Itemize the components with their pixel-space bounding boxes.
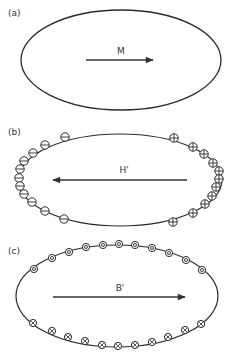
- diagram-canvas: (a) M (b) H' (c) B': [0, 0, 232, 354]
- minus-icon: [20, 157, 28, 165]
- cross-into-page-icon: [181, 326, 188, 333]
- dot-out-of-page-icon: [115, 240, 122, 247]
- minus-icon: [20, 190, 28, 198]
- panel-c: (c) B': [8, 240, 218, 349]
- cross-into-page-icon: [48, 327, 55, 334]
- minus-icon: [28, 198, 36, 206]
- plus-icon: [200, 150, 208, 158]
- plus-icon: [189, 143, 197, 151]
- plus-icon: [170, 134, 178, 142]
- dot-out-of-page-icon: [148, 244, 155, 251]
- negative-pole-charges: [15, 133, 69, 223]
- dot-out-of-page-icon: [82, 243, 89, 250]
- cross-into-page-icon: [29, 319, 36, 326]
- plus-icon: [169, 218, 177, 226]
- panel-c-label: (c): [8, 246, 20, 256]
- vector-label-b-prime: B': [116, 283, 125, 293]
- panel-b: (b) H': [8, 127, 223, 226]
- minus-icon: [41, 207, 49, 215]
- dot-out-of-page-icon: [48, 254, 55, 261]
- minus-icon: [16, 165, 24, 173]
- plus-icon: [208, 192, 216, 200]
- minus-icon: [29, 149, 37, 157]
- cross-into-page-icon: [131, 341, 138, 348]
- cross-into-page-icon: [148, 338, 155, 345]
- panel-a: (a) M: [8, 8, 221, 110]
- plus-icon: [201, 200, 209, 208]
- dot-out-of-page-icon: [65, 248, 72, 255]
- current-into-page-markers: [29, 319, 204, 349]
- panel-a-label: (a): [8, 8, 21, 18]
- dot-out-of-page-icon: [99, 241, 106, 248]
- minus-icon: [16, 182, 24, 190]
- plus-icon: [189, 209, 197, 217]
- minus-icon: [15, 174, 23, 182]
- plus-icon: [215, 167, 223, 175]
- vector-label-m: M: [117, 46, 125, 56]
- dot-out-of-page-icon: [30, 265, 37, 272]
- plus-icon: [212, 183, 220, 191]
- cross-into-page-icon: [98, 341, 105, 348]
- minus-icon: [61, 133, 69, 141]
- cross-into-page-icon: [64, 333, 71, 340]
- cross-into-page-icon: [81, 337, 88, 344]
- dot-out-of-page-icon: [182, 256, 189, 263]
- plus-icon: [215, 175, 223, 183]
- minus-icon: [41, 141, 49, 149]
- dot-out-of-page-icon: [131, 241, 138, 248]
- cross-into-page-icon: [197, 320, 204, 327]
- cross-into-page-icon: [114, 342, 121, 349]
- dot-out-of-page-icon: [165, 249, 172, 256]
- plus-icon: [209, 159, 217, 167]
- panel-b-label: (b): [8, 127, 21, 137]
- vector-label-h-prime: H': [119, 165, 128, 175]
- dot-out-of-page-icon: [198, 266, 205, 273]
- current-out-of-page-markers: [30, 240, 205, 273]
- cross-into-page-icon: [164, 333, 171, 340]
- minus-icon: [60, 215, 68, 223]
